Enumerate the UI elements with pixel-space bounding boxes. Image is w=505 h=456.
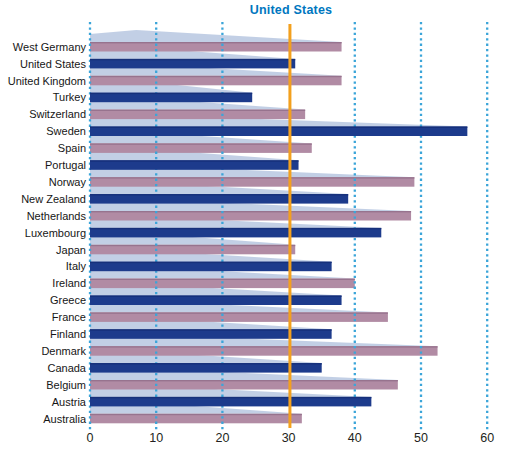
row-label-australia: Australia (0, 413, 86, 424)
row-label-luxembourg: Luxembourg (0, 227, 86, 238)
row-label-netherlands: Netherlands (0, 210, 86, 221)
bar-edge-canada (90, 363, 322, 364)
bar-edge-united-kingdom (90, 76, 342, 77)
bar-west-germany (90, 42, 342, 52)
bar-spain (90, 143, 312, 153)
row-label-japan: Japan (0, 244, 86, 255)
row-label-ireland: Ireland (0, 278, 86, 289)
bar-canada (90, 363, 322, 373)
bar-edge-italy (90, 262, 332, 263)
row-label-turkey: Turkey (0, 92, 86, 103)
bar-edge-portugal (90, 160, 299, 161)
x-tick-label-40: 40 (348, 431, 362, 445)
row-label-finland: Finland (0, 329, 86, 340)
row-label-italy: Italy (0, 261, 86, 272)
bar-edge-turkey (90, 93, 252, 94)
wedge-west-germany (90, 30, 342, 42)
bar-turkey (90, 93, 252, 103)
x-tick-label-60: 60 (480, 431, 494, 445)
row-label-belgium: Belgium (0, 379, 86, 390)
bar-edge-norway (90, 177, 414, 178)
x-tick-label-20: 20 (215, 431, 229, 445)
bar-edge-finland (90, 329, 332, 330)
row-label-switzerland: Switzerland (0, 109, 86, 120)
bar-edge-denmark (90, 346, 438, 347)
row-label-france: France (0, 312, 86, 323)
bar-norway (90, 177, 414, 187)
bar-edge-new-zealand (90, 194, 348, 195)
bar-portugal (90, 160, 299, 170)
bar-netherlands (90, 211, 411, 221)
x-tick-label-10: 10 (149, 431, 163, 445)
row-label-portugal: Portugal (0, 160, 86, 171)
row-label-austria: Austria (0, 396, 86, 407)
bar-japan (90, 245, 295, 255)
row-label-united-kingdom: United Kingdom (0, 75, 86, 86)
bar-edge-greece (90, 296, 342, 297)
bar-edge-australia (90, 414, 302, 415)
bar-edge-west-germany (90, 42, 342, 43)
row-label-spain: Spain (0, 143, 86, 154)
x-tick-label-50: 50 (414, 431, 428, 445)
chart-canvas: United States West GermanyUnited StatesU… (0, 0, 505, 456)
row-label-united-states: United States (0, 58, 86, 69)
bar-switzerland (90, 110, 305, 120)
bar-greece (90, 296, 342, 306)
bar-edge-france (90, 312, 388, 313)
bar-edge-spain (90, 143, 312, 144)
row-label-west-germany: West Germany (0, 41, 86, 52)
bar-austria (90, 397, 371, 407)
bar-edge-japan (90, 245, 295, 246)
bar-edge-ireland (90, 279, 355, 280)
bar-edge-luxembourg (90, 228, 381, 229)
bar-finland (90, 329, 332, 339)
bar-luxembourg (90, 228, 381, 238)
bar-new-zealand (90, 194, 348, 204)
bar-belgium (90, 380, 398, 390)
row-label-norway: Norway (0, 176, 86, 187)
bar-denmark (90, 346, 438, 356)
bar-france (90, 312, 388, 322)
row-label-new-zealand: New Zealand (0, 193, 86, 204)
bar-edge-switzerland (90, 110, 305, 111)
bar-edge-austria (90, 397, 371, 398)
bar-united-states (90, 59, 295, 69)
bar-australia (90, 414, 302, 424)
bar-united-kingdom (90, 76, 342, 86)
x-tick-label-0: 0 (87, 431, 94, 445)
bar-edge-belgium (90, 380, 398, 381)
bar-italy (90, 262, 332, 272)
bar-edge-netherlands (90, 211, 411, 212)
x-tick-label-30: 30 (282, 431, 296, 445)
row-label-denmark: Denmark (0, 345, 86, 356)
row-label-sweden: Sweden (0, 126, 86, 137)
row-label-canada: Canada (0, 362, 86, 373)
bar-edge-united-states (90, 59, 295, 60)
bar-edge-sweden (90, 127, 467, 128)
bar-sweden (90, 127, 467, 137)
row-label-greece: Greece (0, 295, 86, 306)
